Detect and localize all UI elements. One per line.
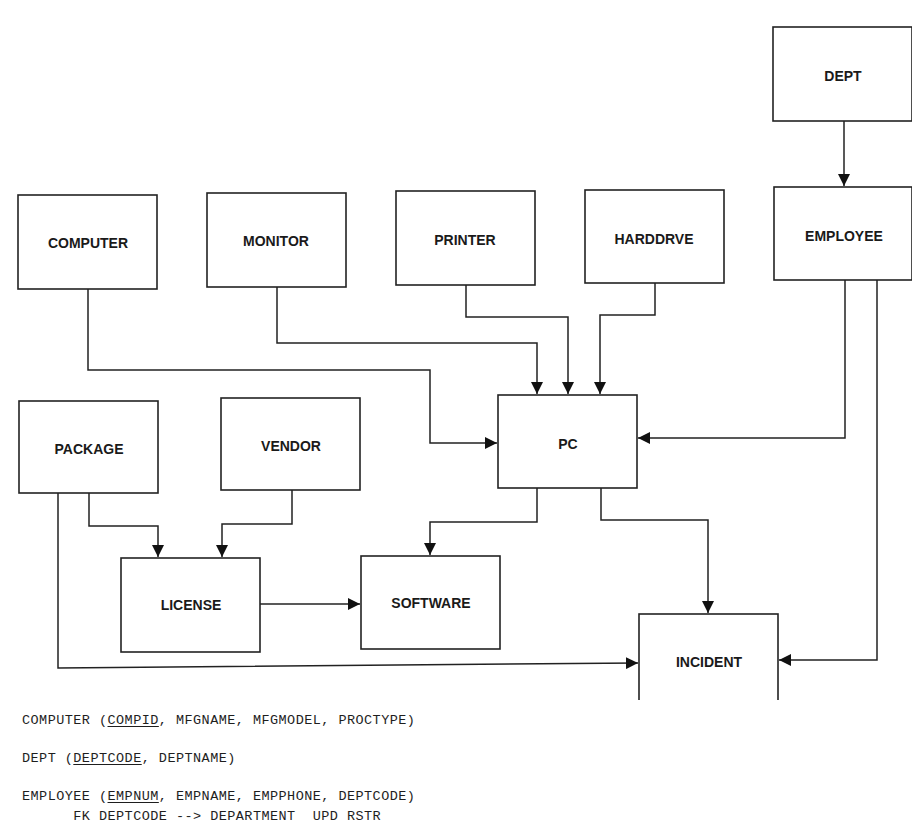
- entity-label: LICENSE: [161, 597, 222, 613]
- entity-label: PRINTER: [434, 232, 495, 248]
- line-pc-software: [430, 488, 537, 555]
- line-employee-pc: [638, 280, 845, 438]
- attributes: , MFGNAME, MFGMODEL, PROCTYPE): [159, 713, 416, 728]
- entity-computer: COMPUTER: [18, 195, 157, 289]
- entity-dept: DEPT: [773, 27, 912, 121]
- entity-label: PACKAGE: [55, 441, 124, 457]
- entity-label: HARDDRVE: [614, 231, 693, 247]
- schema-computer: COMPUTER (COMPID, MFGNAME, MFGMODEL, PRO…: [22, 713, 415, 728]
- attributes: , EMPNAME, EMPPHONE, DEPTCODE): [159, 789, 416, 804]
- entity-label: PC: [558, 436, 577, 452]
- primary-key: EMPNUM: [108, 789, 159, 804]
- entity-harddrve: HARDDRVE: [585, 190, 724, 283]
- line-vendor-license: [222, 490, 292, 557]
- line-monitor-pc: [277, 287, 537, 394]
- entity-printer: PRINTER: [396, 191, 535, 285]
- table-name: DEPT (: [22, 751, 73, 766]
- entity-label: COMPUTER: [48, 235, 128, 251]
- line-pc-incident: [601, 488, 708, 613]
- er-diagram: DEPT COMPUTER MONITOR PRINTER HARDDRVE E…: [0, 0, 912, 700]
- schema-employee-fk: FK DEPTCODE --> DEPARTMENT UPD RSTR: [22, 809, 381, 824]
- entity-package: PACKAGE: [19, 401, 158, 493]
- schema-employee: EMPLOYEE (EMPNUM, EMPNAME, EMPPHONE, DEP…: [22, 789, 415, 804]
- entity-incident: INCIDENT: [639, 614, 778, 700]
- entity-employee: EMPLOYEE: [774, 187, 912, 280]
- line-package-license: [89, 493, 158, 557]
- entity-label: MONITOR: [243, 233, 309, 249]
- entity-monitor: MONITOR: [207, 193, 346, 287]
- attributes: , DEPTNAME): [142, 751, 236, 766]
- entity-label: SOFTWARE: [391, 595, 470, 611]
- line-harddrve-pc: [600, 283, 655, 394]
- line-employee-incident: [779, 280, 877, 660]
- entity-label: VENDOR: [261, 438, 321, 454]
- primary-key: COMPID: [108, 713, 159, 728]
- table-name: COMPUTER (: [22, 713, 108, 728]
- entity-label: INCIDENT: [676, 654, 743, 670]
- entity-pc: PC: [498, 395, 637, 488]
- entity-software: SOFTWARE: [361, 556, 500, 649]
- entity-vendor: VENDOR: [221, 398, 360, 490]
- primary-key: DEPTCODE: [73, 751, 141, 766]
- table-name: EMPLOYEE (: [22, 789, 108, 804]
- line-printer-pc: [466, 285, 568, 394]
- entity-license: LICENSE: [121, 558, 260, 652]
- schema-dept: DEPT (DEPTCODE, DEPTNAME): [22, 751, 236, 766]
- entity-label: EMPLOYEE: [805, 228, 883, 244]
- entity-label: DEPT: [824, 68, 862, 84]
